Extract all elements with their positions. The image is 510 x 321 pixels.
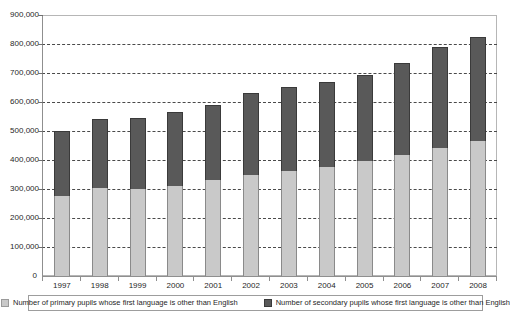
y-tick-label-800000: 800,000 <box>0 40 39 48</box>
x-tick-label-1997: 1997 <box>43 281 81 291</box>
legend-item-secondary[interactable]: Number of secondary pupils whose first l… <box>264 299 510 307</box>
bar-group <box>243 15 259 276</box>
legend-swatch-primary-icon <box>1 299 9 307</box>
bar-segment-secondary[interactable] <box>54 131 70 196</box>
bar-segment-primary[interactable] <box>205 180 221 276</box>
bar-stack[interactable] <box>357 75 373 276</box>
bar-stack[interactable] <box>319 82 335 276</box>
bar-segment-secondary[interactable] <box>92 119 108 188</box>
bar-segment-secondary[interactable] <box>319 82 335 167</box>
x-tick-label-2004: 2004 <box>308 281 346 291</box>
x-tick-label-2003: 2003 <box>270 281 308 291</box>
bar-group <box>130 15 146 276</box>
chart-legend: Number of primary pupils whose first lan… <box>28 295 483 311</box>
bar-segment-secondary[interactable] <box>470 37 486 141</box>
x-tick-label-2002: 2002 <box>232 281 270 291</box>
legend-item-primary[interactable]: Number of primary pupils whose first lan… <box>1 299 238 307</box>
x-tick-label-2005: 2005 <box>346 281 384 291</box>
legend-swatch-secondary-icon <box>264 299 272 307</box>
bar-stack[interactable] <box>432 47 448 276</box>
bar-segment-secondary[interactable] <box>167 112 183 187</box>
bar-segment-primary[interactable] <box>243 175 259 277</box>
bar-segment-secondary[interactable] <box>205 105 221 180</box>
bar-group <box>281 15 297 276</box>
bar-segment-primary[interactable] <box>394 155 410 276</box>
bar-stack[interactable] <box>130 118 146 276</box>
bar-stack[interactable] <box>205 105 221 276</box>
bar-segment-primary[interactable] <box>167 186 183 276</box>
bar-segment-primary[interactable] <box>432 148 448 276</box>
bar-segment-secondary[interactable] <box>432 47 448 148</box>
bar-segment-primary[interactable] <box>92 188 108 276</box>
x-axis-tick-labels: 1997199819992000200120022003200420052006… <box>43 281 497 293</box>
x-tick-label-1998: 1998 <box>81 281 119 291</box>
bar-segment-primary[interactable] <box>281 171 297 276</box>
bar-segment-secondary[interactable] <box>394 63 410 155</box>
bar-segment-primary[interactable] <box>357 161 373 276</box>
bar-group <box>432 15 448 276</box>
bar-group <box>470 15 486 276</box>
bar-stack[interactable] <box>167 112 183 276</box>
bar-group <box>54 15 70 276</box>
y-tick-label-400000: 400,000 <box>0 156 39 164</box>
bar-stack[interactable] <box>54 131 70 276</box>
bar-group <box>167 15 183 276</box>
bar-segment-secondary[interactable] <box>130 118 146 189</box>
bar-segment-secondary[interactable] <box>281 87 297 171</box>
x-tick-label-1999: 1999 <box>119 281 157 291</box>
x-tick-label-2008: 2008 <box>459 281 497 291</box>
bar-group <box>357 15 373 276</box>
bar-group <box>92 15 108 276</box>
bar-group <box>394 15 410 276</box>
bar-segment-primary[interactable] <box>470 141 486 276</box>
bar-group <box>205 15 221 276</box>
y-tick-label-600000: 600,000 <box>0 98 39 106</box>
y-tick-label-700000: 700,000 <box>0 69 39 77</box>
x-tick-label-2007: 2007 <box>421 281 459 291</box>
bar-segment-secondary[interactable] <box>243 93 259 174</box>
x-tick-label-2000: 2000 <box>157 281 195 291</box>
x-tick-label-2001: 2001 <box>194 281 232 291</box>
chart-title <box>0 0 503 9</box>
y-tick-label-500000: 500,000 <box>0 127 39 135</box>
bar-stack[interactable] <box>394 63 410 276</box>
bar-segment-primary[interactable] <box>54 196 70 276</box>
legend-label-primary: Number of primary pupils whose first lan… <box>13 299 238 307</box>
legend-label-secondary: Number of secondary pupils whose first l… <box>276 299 510 307</box>
bar-stack[interactable] <box>92 119 108 276</box>
bar-stack[interactable] <box>470 37 486 276</box>
y-tick-label-zero: 0 <box>25 272 37 280</box>
bar-stack[interactable] <box>281 87 297 276</box>
bar-stack[interactable] <box>243 93 259 276</box>
x-tick-label-2006: 2006 <box>384 281 422 291</box>
y-tick-label-100000: 100,000 <box>0 243 39 251</box>
bar-segment-primary[interactable] <box>319 167 335 276</box>
bar-segment-primary[interactable] <box>130 189 146 276</box>
bar-group <box>319 15 335 276</box>
y-tick-label-900000: 900,000 <box>0 11 39 19</box>
bar-segment-secondary[interactable] <box>357 75 373 162</box>
bars-layer <box>43 15 497 276</box>
y-tick-label-300000: 300,000 <box>0 185 39 193</box>
y-tick-label-200000: 200,000 <box>0 214 39 222</box>
